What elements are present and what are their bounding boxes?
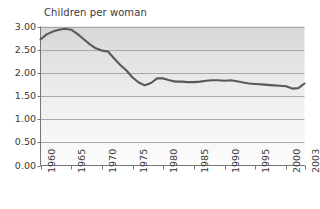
x-axis-labels: 1960196519701975198019851990199520002003 xyxy=(0,0,320,209)
x-axis-tick-label: 1975 xyxy=(138,148,149,172)
chart-container: Children per woman 3.002.502.001.501.000… xyxy=(0,0,320,209)
x-axis-tick-label: 1985 xyxy=(199,148,210,172)
x-axis-tick-label: 1965 xyxy=(76,148,87,172)
x-axis-tick-label: 2000 xyxy=(291,148,302,172)
x-axis-tick-label: 1980 xyxy=(168,148,179,172)
x-axis-tick-label: 1995 xyxy=(260,148,271,172)
x-axis-tick-label: 1960 xyxy=(46,148,57,172)
x-axis-tick-label: 2003 xyxy=(310,148,320,172)
x-axis-tick-label: 1970 xyxy=(107,148,118,172)
x-axis-tick-label: 1990 xyxy=(230,148,241,172)
